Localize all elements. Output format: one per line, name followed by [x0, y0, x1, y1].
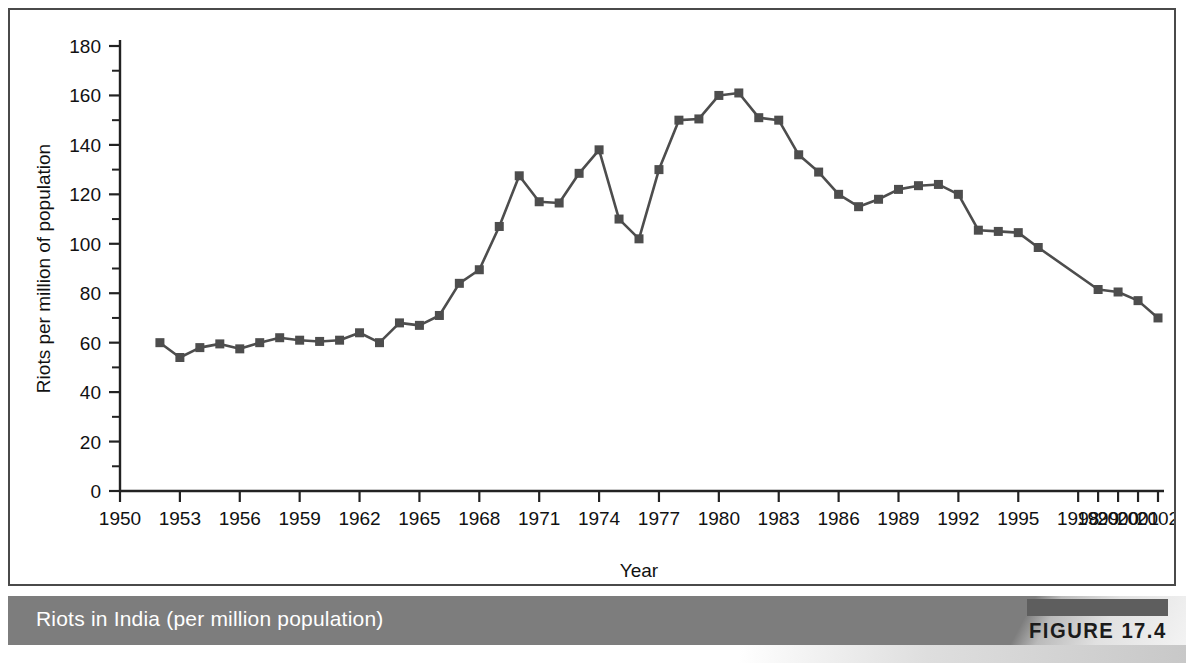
data-point-marker	[934, 180, 943, 189]
data-point-marker	[1154, 313, 1163, 322]
data-point-marker	[794, 150, 803, 159]
y-tick-label: 60	[80, 333, 101, 354]
data-point-marker	[475, 265, 484, 274]
data-point-marker	[215, 339, 224, 348]
figure-tag-bar	[1027, 599, 1168, 616]
data-point-marker	[694, 114, 703, 123]
y-tick-label: 40	[80, 382, 101, 403]
data-point-marker	[335, 336, 344, 345]
x-tick-labels: 1950195319561959196219651968197119741977…	[99, 508, 1174, 529]
data-point-marker	[674, 116, 683, 125]
data-point-marker	[774, 116, 783, 125]
data-series-riots	[155, 88, 1162, 362]
x-tick-label: 1971	[518, 508, 560, 529]
data-point-marker	[814, 168, 823, 177]
data-point-marker	[255, 338, 264, 347]
data-point-marker	[415, 321, 424, 330]
x-tick-label: 1986	[817, 508, 859, 529]
x-tick-label: 2002	[1137, 508, 1174, 529]
x-tick-label: 1992	[937, 508, 979, 529]
data-point-marker	[235, 344, 244, 353]
figure-caption-text: Riots in India (per million population)	[36, 607, 383, 631]
figure-container: 020406080100120140160180 195019531956195…	[0, 0, 1186, 663]
data-point-marker	[155, 338, 164, 347]
data-point-marker	[874, 195, 883, 204]
y-tick-labels: 020406080100120140160180	[69, 36, 101, 502]
y-tick-label: 160	[69, 85, 101, 106]
x-axis-title: Year	[620, 560, 659, 581]
data-point-marker	[1094, 285, 1103, 294]
data-point-marker	[175, 353, 184, 362]
data-point-marker	[834, 190, 843, 199]
y-tick-label: 100	[69, 234, 101, 255]
data-point-marker	[914, 181, 923, 190]
data-point-marker	[974, 226, 983, 235]
x-tick-label: 1977	[638, 508, 680, 529]
data-point-marker	[754, 113, 763, 122]
data-point-marker	[1114, 287, 1123, 296]
data-point-marker	[295, 336, 304, 345]
data-point-marker	[635, 234, 644, 243]
x-tick-label: 1968	[458, 508, 500, 529]
y-tick-label: 140	[69, 135, 101, 156]
data-point-marker	[195, 343, 204, 352]
chart-plot-frame: 020406080100120140160180 195019531956195…	[8, 8, 1176, 586]
data-point-marker	[954, 190, 963, 199]
data-point-marker	[535, 197, 544, 206]
data-point-marker	[455, 279, 464, 288]
data-point-marker	[555, 198, 564, 207]
data-point-marker	[994, 227, 1003, 236]
data-point-marker	[714, 91, 723, 100]
x-tick-label: 1974	[578, 508, 621, 529]
x-tick-label: 1959	[279, 508, 321, 529]
data-point-marker	[395, 318, 404, 327]
figure-caption-band: Riots in India (per million population) …	[8, 596, 1186, 663]
data-point-marker	[595, 145, 604, 154]
data-point-marker	[375, 338, 384, 347]
x-tick-label: 1980	[698, 508, 740, 529]
data-point-marker	[1014, 228, 1023, 237]
x-tick-label: 1950	[99, 508, 141, 529]
data-point-marker	[734, 88, 743, 97]
y-tick-label: 180	[69, 36, 101, 57]
figure-tag-label: FIGURE 17.4	[1029, 618, 1167, 644]
x-tick-label: 1962	[338, 508, 380, 529]
y-axis-title: Riots per million of population	[33, 144, 54, 393]
y-tick-label: 120	[69, 184, 101, 205]
data-point-marker	[315, 337, 324, 346]
x-tick-label: 1953	[159, 508, 201, 529]
data-point-marker	[1034, 243, 1043, 252]
data-point-marker	[654, 165, 663, 174]
y-tick-label: 80	[80, 283, 101, 304]
y-tick-label: 20	[80, 432, 101, 453]
x-tick-label: 1983	[758, 508, 800, 529]
caption-bar-shadow	[8, 645, 1186, 663]
data-point-marker	[275, 333, 284, 342]
data-point-marker	[515, 171, 524, 180]
data-point-marker	[435, 311, 444, 320]
x-tick-label: 1965	[398, 508, 440, 529]
data-point-marker	[894, 185, 903, 194]
chart-axes	[109, 40, 1164, 502]
data-point-marker	[575, 169, 584, 178]
line-chart: 020406080100120140160180 195019531956195…	[10, 10, 1174, 584]
data-point-marker	[355, 328, 364, 337]
data-point-marker	[854, 202, 863, 211]
x-tick-label: 1989	[877, 508, 919, 529]
data-point-marker	[615, 215, 624, 224]
data-point-marker	[495, 222, 504, 231]
y-tick-label: 0	[90, 481, 101, 502]
x-tick-label: 1995	[997, 508, 1039, 529]
x-tick-label: 1956	[219, 508, 261, 529]
data-point-marker	[1134, 296, 1143, 305]
